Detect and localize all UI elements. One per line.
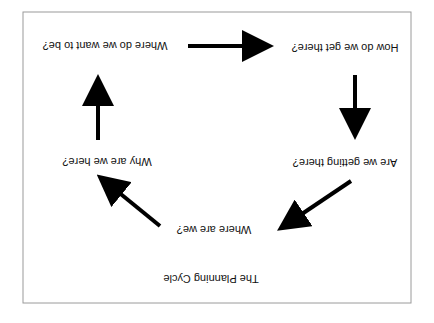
diagram-title: The Planning Cycle: [163, 273, 258, 285]
node-where-want: Where do we want to be?: [43, 40, 168, 52]
node-how-get: How do we get there?: [291, 42, 398, 54]
node-where-now: Where are we?: [177, 224, 252, 236]
node-why-here: Why are we here?: [62, 156, 151, 168]
planning-cycle-diagram: Where do we want to be? How do we get th…: [0, 0, 434, 323]
node-are-getting: Are we getting there?: [293, 157, 398, 169]
